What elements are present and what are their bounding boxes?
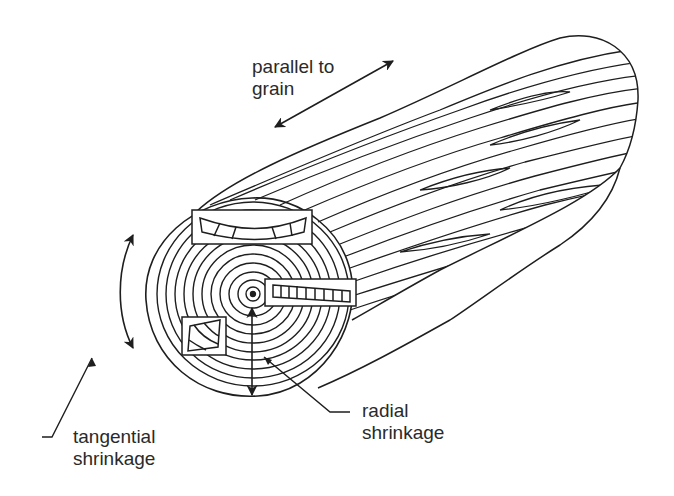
tangential-sample <box>192 210 312 244</box>
radial-label-line1: radial <box>362 400 444 422</box>
parallel-to-grain-label: parallel to grain <box>252 56 334 100</box>
radial-label-line2: shrinkage <box>362 422 444 444</box>
tangential-label-line1: tangential <box>73 426 155 448</box>
tangential-shrinkage-label: tangential shrinkage <box>73 426 155 470</box>
radial-sample <box>265 279 356 306</box>
tangential-label-line2: shrinkage <box>73 448 155 470</box>
tangential-arrow <box>120 235 133 348</box>
parallel-label-line1: parallel to <box>252 56 334 78</box>
log-shrinkage-diagram: parallel to grain tangential shrinkage r… <box>0 0 674 496</box>
parallel-label-line2: grain <box>252 78 334 100</box>
log-illustration <box>0 0 674 496</box>
radial-shrinkage-label: radial shrinkage <box>362 400 444 444</box>
leader-lines <box>42 357 350 437</box>
diamond-sample <box>182 317 226 355</box>
